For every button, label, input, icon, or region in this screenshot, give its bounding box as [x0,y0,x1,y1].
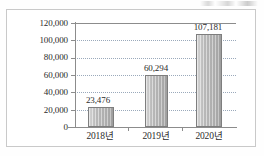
y-tick-label-40000: 40,000 [16,88,68,97]
chart-page: 120,000 100,000 80,000 60,000 40,000 20,… [0,0,264,156]
y-axis-labels: 120,000 100,000 80,000 60,000 40,000 20,… [14,0,68,156]
y-tick-label-100000: 100,000 [16,36,68,45]
y-axis-line [75,22,76,128]
value-label-2019: 60,294 [126,64,186,73]
y-tick-label-80000: 80,000 [16,53,68,62]
y-tick-label-0: 0 [16,123,68,132]
x-axis-line [67,127,237,128]
x-category-label-2019: 2019년 [126,131,186,142]
bar-2019[interactable] [145,75,168,127]
x-category-label-2018: 2018년 [70,131,130,142]
value-label-2018: 23,476 [68,96,128,105]
bar-chart: 120,000 100,000 80,000 60,000 40,000 20,… [0,0,264,156]
y-tick-label-60000: 60,000 [16,71,68,80]
value-label-2020: 107,181 [174,23,242,32]
bar-2018[interactable] [88,107,114,127]
x-category-label-2020: 2020년 [179,131,239,142]
plot-area [75,23,236,127]
bar-2020[interactable] [196,34,222,127]
y-tick-label-120000: 120,000 [16,19,68,28]
y-tick-label-20000: 20,000 [16,106,68,115]
